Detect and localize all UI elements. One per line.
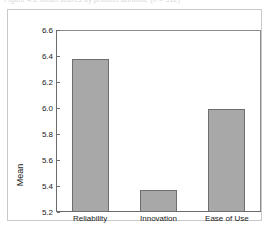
bar-slot xyxy=(208,30,245,212)
y-axis-title: Mean xyxy=(15,153,25,197)
bar-slot xyxy=(72,30,109,212)
y-axis-tick-label: 6.2 xyxy=(12,78,56,87)
y-axis-tick xyxy=(57,212,60,213)
y-axis-tick-label: 6.0 xyxy=(12,104,56,113)
bar[interactable] xyxy=(208,109,245,212)
clipped-caption-label: Figure 4.2 Mean scores by product attrib… xyxy=(4,0,180,3)
bar-series xyxy=(56,30,261,212)
y-axis-tick-label: 5.8 xyxy=(12,130,56,139)
x-axis-tick-label: Reliability xyxy=(73,214,107,223)
y-axis-tick-label: 5.2 xyxy=(12,208,56,217)
x-axis-tick-label: Innovation xyxy=(140,214,177,223)
figure-container: Figure 4.2 Mean scores by product attrib… xyxy=(0,0,270,228)
bar[interactable] xyxy=(72,59,109,212)
x-axis-tick-label: Ease of Use xyxy=(205,214,249,223)
y-axis-tick-label: 6.6 xyxy=(12,26,56,35)
figure-border: 6.66.46.26.05.85.65.45.2 Mean Reliabilit… xyxy=(7,9,262,221)
y-axis-tick-label: 6.4 xyxy=(12,52,56,61)
bar[interactable] xyxy=(140,190,177,212)
clipped-caption-text: Figure 4.2 Mean scores by product attrib… xyxy=(0,0,270,7)
bar-slot xyxy=(140,30,177,212)
